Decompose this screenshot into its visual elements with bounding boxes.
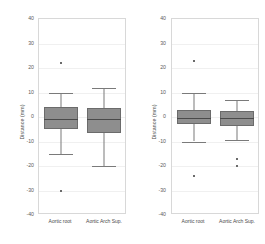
y-tick-label: 10 [28, 89, 34, 95]
whisker-upper [193, 93, 194, 110]
y-tick-label: 20 [28, 64, 34, 70]
median-line [87, 119, 121, 120]
whisker-cap-lower [49, 154, 73, 155]
y-tick-label: -10 [159, 138, 167, 144]
outlier-point [193, 175, 195, 177]
plot-area-left [38, 18, 126, 214]
y-tick-label: -20 [159, 162, 167, 168]
plot-area-right [171, 18, 259, 214]
y-axis-ticks-left: 403020100-10-20-30-40 [14, 18, 36, 214]
box-plot-group [87, 19, 121, 213]
box-plot-group [44, 19, 78, 213]
y-tick-label: -20 [27, 162, 35, 168]
median-line [220, 118, 254, 119]
x-axis-category-label: Aortic root [49, 218, 72, 224]
whisker-upper [236, 100, 237, 111]
box-plot-group [177, 19, 211, 213]
x-axis-category-label: Aortic root [182, 218, 205, 224]
median-line [44, 119, 78, 120]
whisker-cap-lower [225, 140, 249, 141]
y-tick-label: -40 [27, 211, 35, 217]
whisker-cap-lower [182, 142, 206, 143]
whisker-lower [103, 133, 104, 166]
whisker-lower [236, 126, 237, 141]
y-tick-label: 0 [31, 113, 34, 119]
y-tick-label: 10 [160, 89, 166, 95]
x-axis-labels-left: Aortic rootAortic Arch Sup. [38, 218, 126, 232]
whisker-cap-lower [92, 166, 116, 167]
whisker-lower [193, 124, 194, 141]
whisker-cap-upper [92, 88, 116, 89]
whisker-lower [60, 129, 61, 154]
y-tick-label: -30 [27, 187, 35, 193]
y-tick-label: 40 [28, 15, 34, 21]
y-tick-label: -30 [159, 187, 167, 193]
chart-panel-right: Distance (mm) 403020100-10-20-30-40 Aort… [132, 0, 265, 244]
y-tick-label: 30 [160, 40, 166, 46]
box-plot-group [220, 19, 254, 213]
box-iqr [177, 110, 211, 125]
box-iqr [87, 108, 121, 133]
whisker-cap-upper [182, 93, 206, 94]
outlier-point [193, 60, 195, 62]
outlier-point [60, 190, 62, 192]
x-axis-category-label: Aortic Arch Sup. [86, 218, 122, 224]
outlier-point [60, 62, 62, 64]
y-tick-label: 40 [160, 15, 166, 21]
y-axis-ticks-right: 403020100-10-20-30-40 [146, 18, 168, 214]
y-tick-label: -40 [159, 211, 167, 217]
whisker-cap-upper [225, 100, 249, 101]
y-tick-label: 30 [28, 40, 34, 46]
outlier-point [236, 158, 238, 160]
whisker-upper [60, 93, 61, 108]
x-axis-category-label: Aortic Arch Sup. [219, 218, 255, 224]
whisker-upper [103, 88, 104, 109]
x-axis-labels-right: Aortic rootAortic Arch Sup. [171, 218, 259, 232]
box-iqr [44, 107, 78, 129]
outlier-point [236, 165, 238, 167]
chart-panel-left: Distance (mm) 403020100-10-20-30-40 Aort… [0, 0, 132, 244]
y-tick-label: 0 [163, 113, 166, 119]
y-tick-label: 20 [160, 64, 166, 70]
y-tick-label: -10 [27, 138, 35, 144]
whisker-cap-upper [49, 93, 73, 94]
boxplot-figure: Distance (mm) 403020100-10-20-30-40 Aort… [0, 0, 265, 244]
median-line [177, 118, 211, 119]
